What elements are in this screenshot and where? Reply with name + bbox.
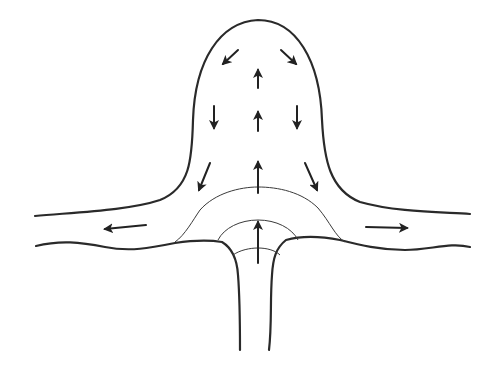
plume-flow-diagram [0, 0, 495, 378]
small-inner-arc [233, 248, 280, 255]
large-inner-arc [175, 187, 345, 242]
lower-right-boundary [269, 237, 470, 350]
arrow-head-low-right [305, 163, 317, 190]
arrow-head-low-left [199, 163, 210, 190]
dome-upper-boundary [35, 20, 470, 216]
arrow-head-upper-right [281, 50, 296, 64]
arrow-outflow-right [366, 227, 407, 228]
lower-left-boundary [36, 241, 240, 350]
arrow-outflow-left [105, 225, 146, 229]
arrow-head-upper-left [223, 50, 238, 64]
